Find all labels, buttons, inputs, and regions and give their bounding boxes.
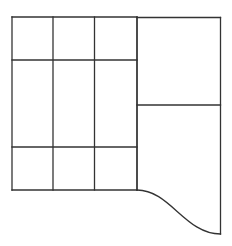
floor-plan-diagram [0,0,232,246]
diagram-canvas [0,0,232,246]
curved-boundary-line [137,190,221,234]
